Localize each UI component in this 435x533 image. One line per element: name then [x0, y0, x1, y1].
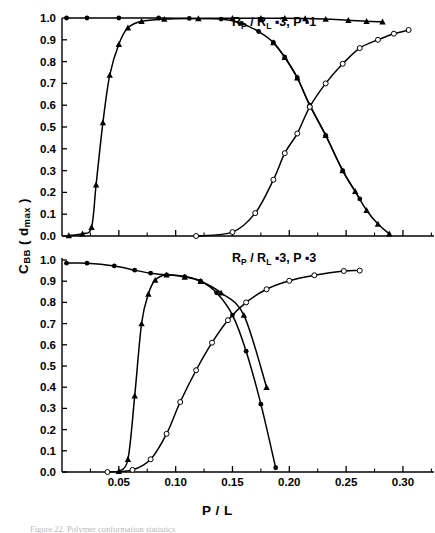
data-point-marker — [194, 234, 199, 239]
axis-lines — [62, 18, 434, 236]
x-axis-tick-label: 0.05 — [108, 476, 131, 488]
data-point-marker — [88, 224, 94, 230]
data-point-marker — [244, 349, 249, 354]
x-axis-tick-label: 0.20 — [278, 476, 300, 488]
y-axis-tick-label: 0.2 — [40, 186, 56, 198]
data-point-marker — [230, 230, 235, 235]
chart-svg: 0.00.10.20.30.40.50.60.70.80.91.0RP / RL… — [0, 4, 435, 244]
y-axis-tick-label: 0.0 — [40, 230, 56, 242]
data-point-marker — [253, 211, 258, 216]
data-point-marker — [194, 368, 199, 373]
panel-annotation: RP / RL ▪3, P ▪1 — [232, 15, 316, 31]
data-point-marker — [132, 268, 137, 273]
data-point-marker — [178, 400, 183, 405]
data-point-marker — [107, 72, 113, 78]
data-point-marker — [357, 46, 362, 51]
data-point-marker — [132, 392, 138, 398]
y-axis-tick-label: 0.6 — [40, 339, 56, 351]
x-axis-title: P / L — [0, 503, 435, 518]
y-axis-tick-label: 0.8 — [40, 56, 57, 68]
data-point-marker — [323, 81, 328, 86]
data-point-marker — [241, 312, 247, 318]
data-point-marker — [287, 278, 292, 283]
panel-annotation: RP / RL ▪3, P ▪3 — [232, 251, 316, 267]
data-point-marker — [307, 104, 312, 109]
y-axis-tick-label: 1.0 — [40, 254, 56, 266]
data-point-marker — [148, 457, 153, 462]
chart-panel-top: 0.00.10.20.30.40.50.60.70.80.91.0RP / RL… — [0, 4, 435, 244]
chart-panel-bottom: 0.00.10.20.30.40.50.60.70.80.91.00.050.1… — [0, 244, 435, 489]
data-point-marker — [210, 340, 215, 345]
data-point-marker — [116, 41, 122, 47]
figure-caption: Figure 22. Polymer conformation statisti… — [30, 524, 330, 533]
data-point-marker — [263, 384, 269, 390]
data-point-marker — [112, 264, 117, 269]
y-axis-tick-label: 0.9 — [40, 34, 56, 46]
data-point-marker — [375, 37, 380, 42]
y-axis-tick-label: 0.1 — [40, 208, 57, 220]
data-point-marker — [282, 151, 287, 156]
y-axis-tick-label: 0.8 — [40, 296, 57, 308]
data-point-marker — [244, 300, 249, 305]
y-axis-tick-label: 0.4 — [40, 381, 57, 393]
data-point-marker — [340, 61, 345, 66]
data-point-marker — [225, 318, 230, 323]
data-point-marker — [105, 470, 110, 475]
data-point-marker — [100, 119, 106, 125]
data-point-marker — [138, 320, 144, 326]
y-axis-tick-label: 0.2 — [40, 424, 56, 436]
axis-lines — [62, 258, 434, 472]
y-axis-tick-label: 0.6 — [40, 99, 56, 111]
data-point-marker — [64, 16, 69, 21]
x-axis-ticks — [90, 230, 431, 236]
data-point-marker — [271, 177, 276, 182]
data-series — [194, 27, 412, 238]
figure-container: CBB ( dmax ) 0.00.10.20.30.40.50.60.70.8… — [0, 0, 435, 533]
y-axis-tick-label: 0.7 — [40, 77, 56, 89]
y-axis-tick-label: 0.4 — [40, 143, 57, 155]
data-point-marker — [391, 31, 396, 36]
y-axis-tick-label: 0.9 — [40, 275, 56, 287]
data-point-marker — [258, 402, 263, 407]
data-point-marker — [164, 431, 169, 436]
y-axis-tick-label: 1.0 — [40, 12, 56, 24]
data-point-marker — [148, 271, 153, 276]
data-series — [64, 16, 362, 202]
x-axis-tick-label: 0.30 — [392, 476, 414, 488]
data-point-marker — [406, 27, 411, 32]
data-series — [105, 268, 362, 474]
data-point-marker — [219, 17, 224, 22]
data-point-marker — [116, 16, 121, 21]
y-axis-tick-label: 0.0 — [40, 466, 56, 478]
data-point-marker — [357, 268, 362, 273]
data-point-marker — [273, 465, 278, 470]
y-axis-tick-label: 0.5 — [40, 121, 57, 133]
data-point-marker — [130, 467, 135, 472]
x-axis-tick-label: 0.25 — [335, 476, 358, 488]
y-axis-tick-label: 0.5 — [40, 360, 57, 372]
y-axis-tick-label: 0.3 — [40, 165, 56, 177]
data-point-marker — [85, 261, 90, 266]
y-axis-tick-label: 0.7 — [40, 318, 56, 330]
data-point-marker — [295, 131, 300, 136]
y-axis-tick-label: 0.3 — [40, 402, 56, 414]
data-series — [66, 15, 386, 238]
x-axis-tick-label: 0.15 — [221, 476, 244, 488]
data-point-marker — [85, 16, 90, 21]
data-series — [270, 39, 392, 236]
data-point-marker — [312, 273, 317, 278]
data-point-marker — [125, 456, 131, 462]
data-point-marker — [93, 182, 99, 188]
x-axis-ticks: 0.050.100.150.200.250.30 — [90, 466, 431, 488]
data-point-marker — [341, 269, 346, 274]
chart-svg: 0.00.10.20.30.40.50.60.70.80.91.00.050.1… — [0, 244, 435, 506]
y-axis-ticks: 0.00.10.20.30.40.50.60.70.80.91.0 — [40, 12, 67, 242]
x-axis-tick-label: 0.10 — [164, 476, 186, 488]
y-axis-ticks: 0.00.10.20.30.40.50.60.70.80.91.0 — [40, 254, 67, 478]
data-point-marker — [256, 29, 261, 34]
data-series — [64, 261, 278, 470]
y-axis-tick-label: 0.1 — [40, 445, 57, 457]
data-point-marker — [64, 261, 69, 266]
data-point-marker — [264, 287, 269, 292]
data-point-marker — [145, 291, 151, 297]
